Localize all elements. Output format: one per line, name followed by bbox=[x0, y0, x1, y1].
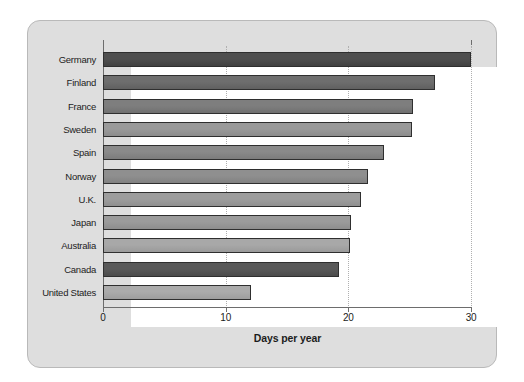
bar bbox=[103, 52, 471, 67]
bar bbox=[103, 145, 384, 160]
category-label: Sweden bbox=[0, 122, 96, 137]
category-label: Canada bbox=[0, 262, 96, 277]
bar bbox=[103, 122, 412, 137]
x-tick-label: 30 bbox=[456, 312, 486, 323]
category-label: Finland bbox=[0, 75, 96, 90]
category-label: U.K. bbox=[0, 192, 96, 207]
bar-row: Spain bbox=[0, 145, 524, 160]
bar-row: U.K. bbox=[0, 192, 524, 207]
tick-mark-top-0 bbox=[103, 40, 104, 45]
x-tick-label: 0 bbox=[88, 312, 118, 323]
tick-mark-top-30 bbox=[471, 40, 472, 45]
x-tick-label: 20 bbox=[333, 312, 363, 323]
category-label: France bbox=[0, 99, 96, 114]
bar bbox=[103, 75, 435, 90]
bar-row: Germany bbox=[0, 52, 524, 67]
category-label: Germany bbox=[0, 52, 96, 67]
bar-row: Norway bbox=[0, 169, 524, 184]
bar bbox=[103, 215, 351, 230]
bar bbox=[103, 238, 350, 253]
category-label: Norway bbox=[0, 169, 96, 184]
x-tick-label: 10 bbox=[211, 312, 241, 323]
bar-row: Japan bbox=[0, 215, 524, 230]
category-axis-line bbox=[103, 307, 472, 308]
bar bbox=[103, 99, 413, 114]
x-axis-title: Days per year bbox=[103, 332, 472, 344]
bar bbox=[103, 192, 361, 207]
bar-row: Finland bbox=[0, 75, 524, 90]
category-label: Australia bbox=[0, 238, 96, 253]
category-label: Spain bbox=[0, 145, 96, 160]
category-label: Japan bbox=[0, 215, 96, 230]
bar-row: France bbox=[0, 99, 524, 114]
chart-figure: 0102030 GermanyFinlandFranceSwedenSpainN… bbox=[0, 0, 524, 382]
bar-row: Canada bbox=[0, 262, 524, 277]
bar bbox=[103, 262, 339, 277]
bar bbox=[103, 169, 368, 184]
category-label: United States bbox=[0, 285, 96, 300]
bar bbox=[103, 285, 251, 300]
bar-row: Australia bbox=[0, 238, 524, 253]
bar-row: Sweden bbox=[0, 122, 524, 137]
bar-row: United States bbox=[0, 285, 524, 300]
